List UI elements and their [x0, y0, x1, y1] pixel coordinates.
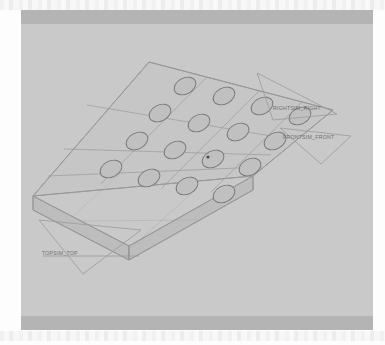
window-chrome-bottom-strip [0, 331, 385, 341]
model-canvas[interactable]: RIGHTSIM_RIGHT FRONTSIM_FRONT TOPSIM_TOP [21, 24, 373, 316]
statusbar-bottom-bar[interactable] [21, 316, 373, 330]
toolbar-top-bar[interactable] [21, 10, 373, 24]
datum-label-front[interactable]: FRONTSIM_FRONT [283, 134, 335, 140]
datum-label-right[interactable]: RIGHTSIM_RIGHT [273, 105, 321, 111]
window-chrome-top-strip [0, 0, 385, 10]
cad-application-window: RIGHTSIM_RIGHT FRONTSIM_FRONT TOPSIM_TOP [0, 0, 385, 345]
cad-3d-viewport[interactable]: RIGHTSIM_RIGHT FRONTSIM_FRONT TOPSIM_TOP [21, 24, 373, 316]
selected-vertex-marker[interactable] [206, 155, 209, 158]
datum-label-top[interactable]: TOPSIM_TOP [42, 250, 78, 256]
